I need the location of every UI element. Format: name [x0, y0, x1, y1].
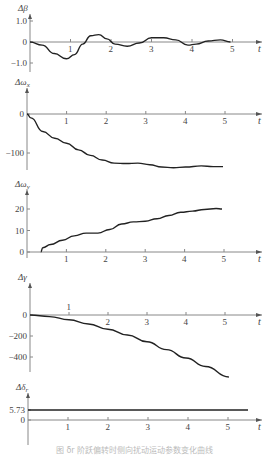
x-tick-label: 1 [67, 302, 72, 312]
x-tick-label: 2 [104, 116, 109, 126]
x-tick-label: 2 [103, 254, 108, 264]
x-tick-label: 5 [226, 422, 231, 432]
x-tick-label: 3 [143, 254, 148, 264]
x-tick-label: 3 [149, 44, 154, 54]
y-axis-label: Δδr [15, 382, 28, 394]
x-tick-label: 5 [222, 254, 227, 264]
y-tick-label: 20 [15, 204, 25, 214]
y-axis-arrow-icon [28, 14, 32, 19]
y-tick-label: 5.73 [9, 405, 25, 415]
x-tick-label: 1 [66, 422, 71, 432]
x-tick-label: 2 [106, 422, 111, 432]
x-tick-label: 5 [223, 116, 228, 126]
x-tick-label: 4 [183, 116, 188, 126]
x-tick-label: 1 [64, 116, 69, 126]
figure-caption: 图 δr 阶跃偏转时侧向扰动运动参数变化曲线 [0, 444, 269, 455]
y-tick-label: 0 [20, 247, 25, 257]
y-tick-label: 1.0 [16, 16, 28, 26]
y-axis-label: Δωx [14, 77, 31, 89]
x-tick-label: 4 [184, 317, 189, 327]
x-tick-label: 1 [64, 254, 69, 264]
y-tick-label: −400 [8, 352, 27, 362]
x-axis-label: t [258, 43, 261, 54]
x-tick-label: 3 [143, 116, 148, 126]
chart-canvas: t123451.00−1.0Δβt123450−100Δωxt123452010… [0, 0, 269, 457]
y-tick-label: 0 [20, 109, 25, 119]
x-tick-label: 5 [223, 317, 228, 327]
y-axis-label: Δγ [17, 272, 27, 282]
panel-2: t123450−100Δωx [5, 77, 262, 170]
panel-3: t1234520100Δωy [14, 179, 262, 264]
y-tick-label: −1.0 [11, 58, 28, 68]
x-tick-label: 3 [146, 422, 151, 432]
x-tick-label: 4 [186, 422, 191, 432]
y-tick-label: −200 [8, 331, 27, 341]
data-curve [27, 114, 223, 168]
panel-4: t123450−200−400Δγ [8, 272, 262, 377]
y-axis-label: Δωy [14, 179, 31, 191]
y-tick-label: −100 [5, 148, 24, 158]
x-tick-label: 4 [182, 254, 187, 264]
data-curve [30, 35, 230, 59]
x-axis-label: t [258, 115, 261, 126]
data-curve [41, 209, 222, 252]
y-tick-label: 0 [21, 415, 26, 425]
y-axis-arrow-icon [28, 283, 32, 288]
x-tick-label: 1 [68, 44, 73, 54]
y-tick-label: 10 [15, 226, 25, 236]
x-tick-label: 3 [145, 317, 150, 327]
x-tick-label: 5 [230, 44, 235, 54]
y-axis-label: Δβ [17, 3, 28, 13]
y-tick-label: 0 [23, 37, 28, 47]
x-axis-label: t [258, 316, 261, 327]
data-curve [30, 315, 229, 377]
x-tick-label: 2 [106, 317, 111, 327]
panel-1: t123451.00−1.0Δβ [11, 3, 262, 72]
y-tick-label: 0 [23, 310, 28, 320]
x-axis-label: t [258, 421, 261, 432]
x-tick-label: 2 [109, 44, 114, 54]
panel-5: t123455.730Δδr [9, 382, 262, 445]
x-axis-label: t [258, 253, 261, 264]
